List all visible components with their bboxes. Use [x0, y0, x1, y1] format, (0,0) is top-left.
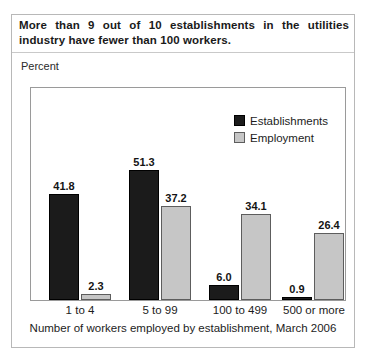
- bar-employment-100-to-499: [241, 214, 271, 300]
- y-axis-caption: Percent: [21, 60, 59, 72]
- bar-value-establishments-100-to-499: 6.0: [206, 271, 242, 283]
- bar-employment-500-or-more: [314, 233, 344, 300]
- x-axis-categories: 1 to 4 5 to 99 100 to 499 500 or more: [30, 304, 346, 320]
- bar-establishments-500-or-more: [282, 297, 312, 300]
- x-axis-label-5-to-99: 5 to 99: [118, 304, 202, 316]
- bar-group-500-or-more: 0.9 26.4: [282, 88, 346, 300]
- bar-group-100-to-499: 6.0 34.1: [209, 88, 273, 300]
- figure-container: More than 9 out of 10 establishments in …: [11, 14, 355, 348]
- x-axis-label-500-or-more: 500 or more: [268, 304, 360, 316]
- bar-employment-5-to-99: [161, 206, 191, 300]
- bar-establishments-1-to-4: [49, 194, 79, 300]
- bar-value-employment-5-to-99: 37.2: [158, 192, 194, 204]
- x-axis-label-1-to-4: 1 to 4: [38, 304, 122, 316]
- bar-establishments-100-to-499: [209, 285, 239, 300]
- bar-establishments-5-to-99: [129, 170, 159, 300]
- bar-value-employment-100-to-499: 34.1: [238, 200, 274, 212]
- bar-value-establishments-5-to-99: 51.3: [126, 156, 162, 168]
- figure-header: More than 9 out of 10 establishments in …: [12, 15, 354, 53]
- bar-employment-1-to-4: [81, 294, 111, 300]
- bar-group-5-to-99: 51.3 37.2: [129, 88, 193, 300]
- bar-value-employment-500-or-more: 26.4: [311, 219, 347, 231]
- x-axis-title: Number of workers employed by establishm…: [12, 322, 354, 334]
- bar-value-establishments-500-or-more: 0.9: [279, 283, 315, 295]
- figure-title: More than 9 out of 10 establishments in …: [19, 18, 349, 47]
- bar-group-1-to-4: 41.8 2.3: [49, 88, 113, 300]
- plot-area: Establishments Employment 41.8 2.3 51.3: [30, 87, 346, 301]
- bar-value-employment-1-to-4: 2.3: [78, 280, 114, 292]
- plot-inner: Establishments Employment 41.8 2.3 51.3: [31, 88, 345, 300]
- bar-value-establishments-1-to-4: 41.8: [46, 180, 82, 192]
